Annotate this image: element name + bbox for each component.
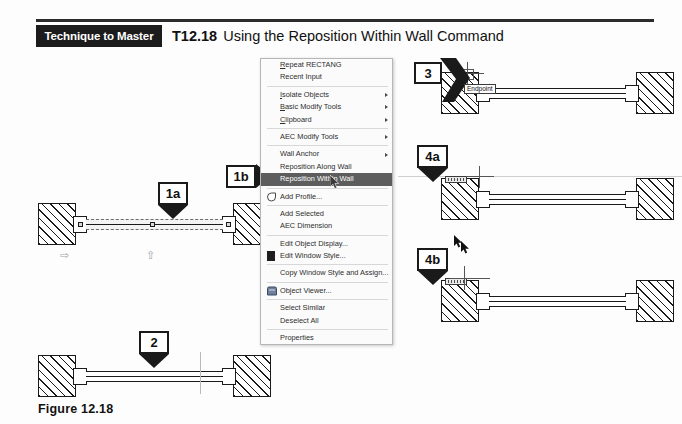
jamb-right-4a [625,191,639,208]
grip-square-mid-1a[interactable] [150,222,155,227]
menu-separator [267,205,388,206]
crosshair-cursor-4a [466,166,494,188]
menu-item-label: AEC Dimension [280,221,332,230]
insertion-marker-4a [445,176,467,183]
menu-item-label: Repeat RECTANG [280,60,341,69]
menu-item-label: Add Profile... [280,192,322,201]
grip-arrow-right-1a[interactable]: ⇨ [60,250,69,261]
jamb-right-3 [625,85,639,102]
menu-item-object-viewer[interactable]: Object Viewer... [261,285,392,297]
menu-separator [267,128,388,129]
menu-item-reposition-within-wall[interactable]: Reposition Within Wall [261,173,392,185]
menu-item-reposition-along-wall[interactable]: Reposition Along Wall [261,161,392,173]
menu-item-label: Copy Window Style and Assign... [280,268,388,277]
callout-1a-arrow-icon [158,205,188,219]
technique-heading: T12.18 Using the Reposition Within Wall … [172,25,504,47]
menu-item-label: Object Viewer... [280,286,332,295]
menu-item-label: Wall Anchor [280,149,319,158]
wall-right-3 [636,72,674,114]
menu-item-copy-window-style-and-assign[interactable]: Copy Window Style and Assign... [261,267,392,279]
callout-step-4b: 4b [417,248,448,285]
callout-3-arrow-icon [438,56,472,106]
menu-separator [267,282,388,283]
menu-item-basic-modify-tools[interactable]: Basic Modify Tools [261,101,392,113]
callout-2-box: 2 [139,331,169,354]
menu-item-isolate-objects[interactable]: Isolate Objects [261,89,392,101]
menu-item-wall-anchor[interactable]: Wall Anchor [261,148,392,160]
osnap-tooltip-endpoint: Endpoint [464,84,496,94]
menu-item-select-similar[interactable]: Select Similar [261,302,392,314]
menu-item-label: Select Similar [280,303,325,312]
header-rule [36,19,654,22]
menu-separator [267,299,388,300]
menu-item-label: Edit Object Display... [280,239,348,248]
submenu-chevron-right-icon [385,153,388,157]
submenu-chevron-right-icon [385,105,388,109]
crosshair-cursor-4b [450,266,490,290]
technique-code: T12.18 [172,28,217,44]
wall-left-1a [38,203,76,245]
callout-1a-box: 1a [158,182,188,205]
menu-separator [267,145,388,146]
menu-item-recent-input[interactable]: Recent Input [261,71,392,83]
callout-step-1a: 1a [158,182,188,219]
window-center-line-3 [489,93,626,94]
menu-item-edit-window-style[interactable]: Edit Window Style... [261,250,392,262]
menu-item-label: AEC Modify Tools [280,132,338,141]
menu-item-label: Deselect All [280,316,319,325]
context-menu[interactable]: Repeat RECTANGRecent InputIsolate Object… [260,58,393,345]
wall-right-2 [233,355,271,397]
menu-item-edit-object-display[interactable]: Edit Object Display... [261,238,392,250]
grip-square-left-1a[interactable] [78,222,83,227]
jamb-left-4b [476,293,490,310]
menu-item-clipboard[interactable]: Clipboard [261,114,392,126]
add-profile-icon [267,192,276,201]
menu-item-add-profile[interactable]: Add Profile... [261,191,392,203]
menu-item-repeat-rectang[interactable]: Repeat RECTANG [261,59,392,71]
reference-vline-2 [200,352,201,394]
menu-item-label: Edit Window Style... [280,251,346,260]
window-center-line-2 [86,376,223,377]
menu-item-label: Basic Modify Tools [280,102,341,111]
callout-4b-label: 4b [425,252,440,267]
menu-item-properties[interactable]: Properties [261,332,392,344]
menu-item-aec-dimension[interactable]: AEC Dimension [261,220,392,232]
menu-separator [267,188,388,189]
menu-item-deselect-all[interactable]: Deselect All [261,315,392,327]
callout-1b-label: 1b [233,169,248,184]
callout-step-4a: 4a [417,145,448,182]
submenu-chevron-right-icon [385,135,388,139]
menu-item-label: Reposition Within Wall [280,174,354,183]
technique-badge: Technique to Master [36,25,162,47]
mouse-pointer-icon [330,175,340,189]
callout-4a-arrow-icon [418,168,448,182]
menu-separator [267,86,388,87]
menu-item-label: Clipboard [280,115,312,124]
object-viewer-icon [267,287,277,296]
wall-left-2 [38,355,76,397]
callout-1b-box: 1b [226,165,256,188]
menu-separator [267,329,388,330]
grip-arrow-up-1a[interactable]: ⇧ [146,250,155,261]
callout-2-arrow-icon [139,354,169,368]
figure-caption: Figure 12.18 [38,402,113,416]
figure-page: Technique to Master T12.18 Using the Rep… [0,0,682,424]
menu-item-label: Isolate Objects [280,90,329,99]
edit-window-style-icon [267,251,275,261]
menu-item-label: Add Selected [280,209,324,218]
menu-item-label: Reposition Along Wall [280,162,352,171]
menu-item-label: Recent Input [280,72,322,81]
grip-square-right-1a[interactable] [226,222,231,227]
menu-item-label: Properties [280,333,314,342]
submenu-chevron-right-icon [385,93,388,97]
submenu-chevron-right-icon [385,118,388,122]
menu-separator [267,235,388,236]
menu-separator [267,264,388,265]
callout-3-label: 3 [424,66,431,81]
menu-item-aec-modify-tools[interactable]: AEC Modify Tools [261,131,392,143]
jamb-right-2 [222,368,236,385]
callout-4b-box: 4b [417,248,448,271]
menu-item-add-selected[interactable]: Add Selected [261,208,392,220]
wall-right-4b [636,280,674,322]
callout-2-label: 2 [150,335,157,350]
